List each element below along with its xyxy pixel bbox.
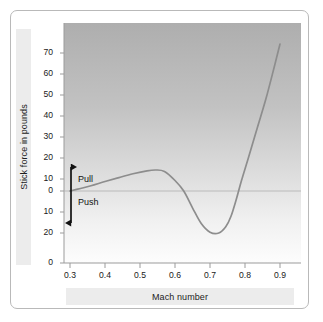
y-tick-label-30: 30 [33, 131, 53, 141]
figure-card: 70 60 50 40 30 20 10 0 10 20 0 0.3 0.4 0… [10, 10, 309, 309]
plot-area-background [64, 23, 301, 263]
y-axis-title: Stick force in pounds [16, 29, 31, 265]
x-tick-label-0-7: 0.7 [198, 270, 222, 280]
x-tick-label-0-6: 0.6 [163, 270, 187, 280]
pull-label: Pull [78, 174, 93, 184]
y-tick-label-10-pull: 10 [33, 173, 53, 183]
stick-force-vs-mach-chart [11, 11, 310, 310]
y-tick-label-50: 50 [33, 89, 53, 99]
y-tick-label-20-push: 20 [33, 227, 53, 237]
y-axis-ticks [60, 53, 64, 263]
x-axis-ticks [70, 263, 280, 268]
y-tick-label-20-pull: 20 [33, 152, 53, 162]
y-tick-label-origin: 0 [33, 257, 53, 267]
x-axis-title: Mach number [66, 288, 294, 305]
push-label: Push [78, 197, 99, 207]
y-tick-label-70: 70 [33, 47, 53, 57]
x-tick-label-0-5: 0.5 [128, 270, 152, 280]
x-tick-label-0-9: 0.9 [268, 270, 292, 280]
x-axis-title-text: Mach number [152, 292, 208, 302]
chart-stage: 70 60 50 40 30 20 10 0 10 20 0 0.3 0.4 0… [11, 11, 310, 310]
x-tick-label-0-4: 0.4 [93, 270, 117, 280]
y-tick-label-40: 40 [33, 110, 53, 120]
y-tick-label-60: 60 [33, 68, 53, 78]
x-tick-label-0-3: 0.3 [58, 270, 82, 280]
y-tick-label-0: 0 [33, 185, 53, 195]
y-tick-label-10-push: 10 [33, 206, 53, 216]
y-axis-title-text: Stick force in pounds [19, 104, 29, 190]
x-tick-label-0-8: 0.8 [233, 270, 257, 280]
